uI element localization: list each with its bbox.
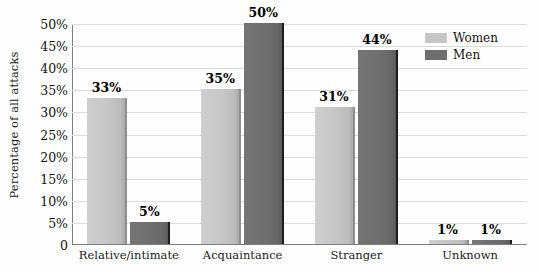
bar-men-relative-intimate: 5%	[130, 222, 170, 244]
bar-women-relative-intimate: 33%	[87, 98, 127, 244]
legend-label: Men	[453, 48, 480, 62]
y-axis-tick-label: 45%	[6, 39, 68, 54]
legend-label: Women	[453, 31, 498, 45]
bar-value-label: 1%	[480, 222, 501, 237]
y-axis-tick-label: 50%	[6, 17, 68, 32]
bar-men-acquaintance: 50%	[244, 23, 284, 244]
legend-item-men: Men	[425, 47, 531, 62]
bar-value-label: 33%	[92, 80, 121, 95]
legend-swatch-icon	[425, 50, 447, 60]
bar-value-label: 35%	[205, 71, 234, 86]
x-axis-category-label: Acquaintance	[203, 248, 283, 262]
bar-value-label: 1%	[437, 222, 458, 237]
y-axis-tick-label: 5%	[6, 215, 68, 230]
y-axis-tick-label: 40%	[6, 61, 68, 76]
y-axis-tick-label: 30%	[6, 105, 68, 120]
y-axis-tick-label: 0	[6, 238, 68, 253]
bar-women-stranger: 31%	[315, 107, 355, 244]
legend-item-women: Women	[425, 30, 531, 45]
x-axis-category-label: Unknown	[442, 248, 498, 262]
x-axis-category-labels: Relative/intimateAcquaintanceStrangerUnk…	[72, 248, 527, 268]
y-axis-tick-label: 25%	[6, 127, 68, 142]
bar-value-label: 31%	[319, 89, 348, 104]
bar-men-unknown: 1%	[472, 240, 512, 244]
legend: WomenMen	[425, 30, 531, 64]
bar-women-unknown: 1%	[429, 240, 469, 244]
bar-value-label: 44%	[362, 32, 391, 47]
y-axis-tick-label: 15%	[6, 171, 68, 186]
bar-value-label: 50%	[248, 5, 277, 20]
y-axis-tick-label: 20%	[6, 149, 68, 164]
x-axis-category-label: Stranger	[330, 248, 382, 262]
y-axis-tick-labels: 05%10%15%20%25%30%35%40%45%50%	[0, 24, 68, 245]
y-axis-tick-label: 35%	[6, 83, 68, 98]
x-axis-category-label: Relative/intimate	[79, 248, 179, 262]
y-axis-tick-label: 10%	[6, 193, 68, 208]
bar-value-label: 5%	[139, 204, 160, 219]
bar-men-stranger: 44%	[358, 50, 398, 244]
legend-swatch-icon	[425, 33, 447, 43]
bar-women-acquaintance: 35%	[201, 89, 241, 244]
bar-chart: Percentage of all attacks 05%10%15%20%25…	[0, 0, 539, 273]
